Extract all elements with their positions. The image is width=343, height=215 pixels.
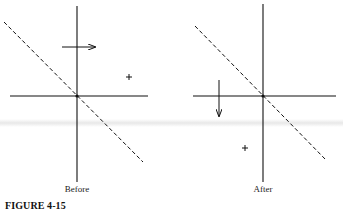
panel-after (193, 4, 336, 182)
figure-caption: FIGURE 4-15 (5, 200, 66, 211)
before-plus-marker-icon (126, 74, 132, 80)
after-plus-marker-icon (242, 145, 248, 151)
before-origin-dot (75, 94, 78, 97)
after-dashed-line (195, 26, 326, 160)
after-origin-dot (261, 94, 264, 97)
panel-before (4, 6, 148, 182)
before-label: Before (65, 184, 90, 194)
figure-diagram (0, 0, 343, 215)
before-dashed-line (4, 22, 143, 162)
after-label: After (254, 184, 273, 194)
